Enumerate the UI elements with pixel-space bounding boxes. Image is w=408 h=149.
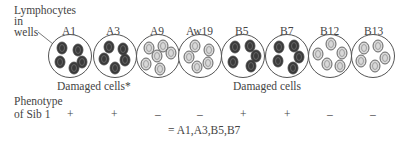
lymphocyte-cell [370,60,380,72]
lymphocyte-cell [166,47,176,59]
well-b13 [352,35,395,78]
lymphocyte-cell [110,62,120,74]
lymphocyte-cell [99,53,109,65]
sign-5: + [284,108,291,120]
lymphocyte-cell [203,57,213,69]
sign-3: – [197,108,203,120]
lymphocyte-cell [73,44,83,56]
lymphocyte-cell [230,41,240,53]
lymphocyte-cell [373,40,383,52]
lymphocyte-cell [294,51,304,63]
lymphocyte-cell [288,62,298,74]
lymphocyte-cell [380,52,390,64]
lymphocyte-cell [141,58,151,70]
lymphocyte-cell [152,50,162,62]
lymphocyte-cell [337,47,347,59]
lymphocyte-cell [184,51,194,63]
lymphocyte-cell [118,43,128,55]
sign-4: + [240,108,247,120]
damaged-cells-label-right: Damaged cells [233,80,301,92]
phenotype-label-line1: Phenotype [14,95,63,107]
lymphocyte-cell [190,40,200,52]
well-a3 [94,35,137,78]
lymphocyte-cell [322,58,332,70]
sign-2: – [155,108,161,120]
lymphocyte-cell [313,48,323,60]
phenotype-label-line2: of Sib 1 [14,108,50,120]
lymphocyte-cell [359,42,369,54]
lymphocyte-cell [228,56,238,68]
well-b5 [222,35,265,78]
lymphocyte-cell [204,44,214,56]
lymphocyte-cell [144,42,154,54]
lymphocyte-cell [245,40,255,52]
damaged-cells-label-left: Damaged cells* [57,80,131,92]
lymphocyte-cell [155,63,165,75]
lymphocyte-cell [246,60,256,72]
lymphocyte-cell [57,42,67,54]
sign-1: + [111,108,118,120]
lymphocyte-cell [289,40,299,52]
lymphocyte-cell [104,41,114,53]
lymphocyte-cell [55,56,65,68]
sign-6: – [327,108,333,120]
sign-7: – [370,108,376,120]
lymphocyte-cell [274,41,284,53]
well-b7 [266,35,309,78]
sign-0: + [67,108,74,120]
lymphocyte-cell [192,61,202,73]
well-aw19 [179,35,222,78]
phenotype-result: = A1,A3,B5,B7 [168,124,240,136]
well-a1 [49,35,92,78]
lymphocyte-cell [273,55,283,67]
lymphocyte-cell [326,38,336,50]
lymphocyte-cell [335,60,345,72]
lymphocyte-cell [120,54,130,66]
lymphocyte-cell [77,56,87,68]
lymphocyte-cell [356,55,366,67]
well-a9 [137,35,180,78]
well-b12 [309,35,352,78]
